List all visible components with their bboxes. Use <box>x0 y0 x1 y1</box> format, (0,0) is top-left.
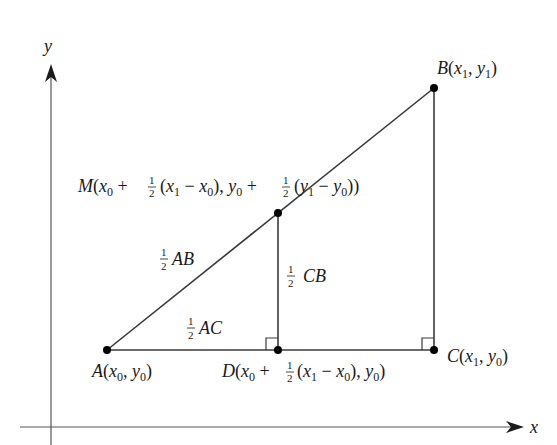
svg-text:M(x0 +: M(x0 + <box>77 176 128 199</box>
label-m: M(x0 + 1 2 (x1 − x0), y0 + 1 2 (y1 − y0)… <box>77 174 359 199</box>
point-c <box>430 346 438 354</box>
point-d <box>274 346 282 354</box>
label-b: B(x1, y1) <box>437 58 497 81</box>
svg-text:1: 1 <box>283 174 289 186</box>
svg-text:1: 1 <box>161 246 167 258</box>
segments <box>107 88 434 350</box>
svg-text:1: 1 <box>288 263 294 275</box>
point-a <box>103 346 111 354</box>
label-half-cb: 1 2 CB <box>287 263 326 289</box>
midpoint-diagram: y x B(x1, y1) M(x0 + 1 2 (x1 − x0), y0 + <box>0 0 557 445</box>
svg-text:2: 2 <box>149 187 155 199</box>
segment-ab <box>107 88 434 350</box>
axes: y x <box>20 36 538 445</box>
svg-text:AB: AB <box>171 249 194 269</box>
svg-text:(x1 − x0), y0): (x1 − x0), y0) <box>297 361 385 384</box>
svg-text:2: 2 <box>283 187 289 199</box>
label-half-ab: 1 2 AB <box>160 246 194 272</box>
point-b <box>430 84 438 92</box>
svg-text:2: 2 <box>288 277 294 289</box>
svg-text:2: 2 <box>161 260 167 272</box>
svg-text:(x1 − x0), y0 +: (x1 − x0), y0 + <box>160 176 257 199</box>
svg-text:2: 2 <box>188 329 194 341</box>
svg-text:CB: CB <box>303 266 326 286</box>
svg-text:1: 1 <box>287 359 293 371</box>
svg-text:AC: AC <box>198 318 223 338</box>
svg-text:1: 1 <box>149 174 155 186</box>
label-half-ac: 1 2 AC <box>187 315 223 341</box>
label-d: D(x0 + 1 2 (x1 − x0), y0) <box>221 359 385 384</box>
svg-text:(y1 − y0)): (y1 − y0)) <box>294 176 359 199</box>
svg-text:D(x0 +: D(x0 + <box>221 361 270 384</box>
x-axis-label: x <box>529 417 538 437</box>
svg-text:1: 1 <box>188 315 194 327</box>
y-axis-label: y <box>42 36 52 56</box>
label-a: A(x0, y0) <box>91 361 152 384</box>
right-angle-marks <box>266 338 434 350</box>
point-m <box>274 209 282 217</box>
svg-text:2: 2 <box>287 372 293 384</box>
label-c: C(x1, y0) <box>447 346 508 369</box>
